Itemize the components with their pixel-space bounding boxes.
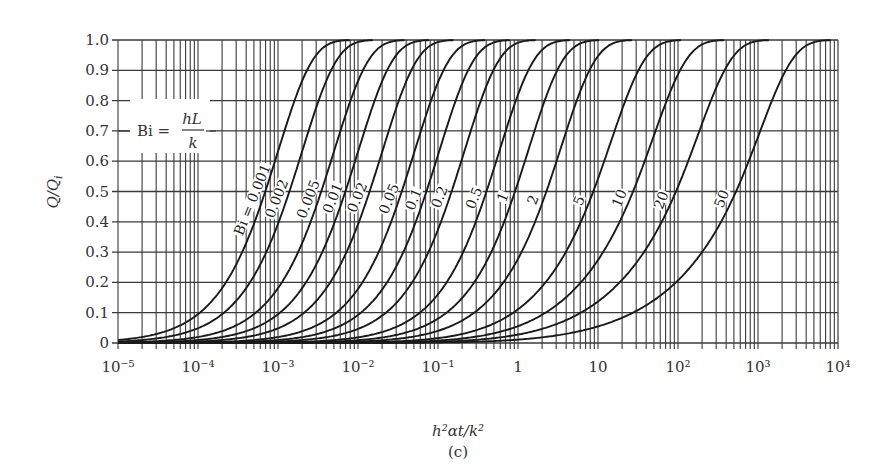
y-tick-label: 0.2	[85, 273, 109, 291]
x-tick-label: 10⁻¹	[421, 358, 454, 376]
x-tick-label: 10⁻³	[261, 358, 294, 376]
figure-caption: (c)	[448, 443, 468, 461]
y-tick-label: 1.0	[85, 31, 109, 49]
y-axis-ticks: 00.10.20.30.40.50.60.70.80.91.0	[85, 31, 109, 352]
y-axis-title-main: Q/Q	[44, 179, 62, 209]
x-tick-label: 10	[588, 358, 607, 376]
y-tick-label: 0.8	[85, 92, 109, 110]
y-tick-label: 0.5	[85, 183, 109, 201]
y-tick-label: 0.1	[85, 304, 109, 322]
y-tick-label: 0.4	[85, 213, 109, 231]
x-tick-label: 10⁻²	[341, 358, 374, 376]
svg-text:Q/Qi: Q/Qi	[44, 175, 65, 208]
x-tick-label: 10⁻⁵	[101, 358, 134, 376]
y-tick-label: 0.6	[85, 152, 109, 170]
y-axis-title: Q/Qi	[44, 175, 65, 208]
x-tick-label: 10²	[665, 358, 690, 376]
y-tick-label: 0.7	[85, 122, 109, 140]
y-tick-label: 0.9	[85, 61, 109, 79]
bi-annotation: Bi = hL k	[118, 99, 216, 153]
curve-labels: Bi = 0.0010.0020.0050.010.020.050.10.20.…	[230, 161, 732, 237]
x-tick-label: 10⁴	[825, 358, 850, 376]
annotation-bi-text: Bi =	[137, 122, 170, 140]
annotation-denominator: k	[188, 134, 197, 152]
x-axis-title: h²αt/k²	[432, 422, 484, 440]
x-tick-label: 1	[513, 358, 523, 376]
y-axis-title-sub: i	[52, 175, 65, 179]
x-tick-label: 10³	[745, 358, 770, 376]
y-tick-label: 0	[99, 334, 109, 352]
annotation-numerator: hL	[182, 110, 202, 128]
curve-label: 0.05	[376, 181, 403, 216]
heat-transfer-chart: Bi = hL k Bi = 0.0010.0020.0050.010.020.…	[0, 0, 885, 472]
x-tick-label: 10⁻⁴	[181, 358, 214, 376]
y-tick-label: 0.3	[85, 243, 109, 261]
x-axis-ticks: 10⁻⁵10⁻⁴10⁻³10⁻²10⁻¹11010²10³10⁴	[101, 358, 850, 376]
